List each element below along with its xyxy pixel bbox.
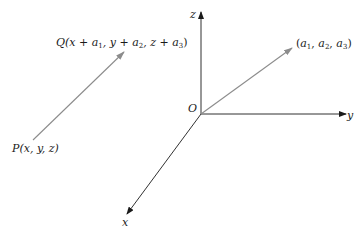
y-axis-label: y	[346, 109, 354, 122]
vector-diagram: z y x O (a1, a2, a3) P(x, y, z) Q(x + a1…	[0, 0, 361, 236]
x-axis	[127, 114, 201, 214]
point-p-label: P(x, y, z)	[11, 142, 59, 155]
z-axis-label: z	[189, 8, 196, 21]
translated-vector-arrow	[33, 52, 124, 140]
x-axis-label: x	[122, 216, 129, 229]
point-q-label: Q(x + a1, y + a2, z + a3)	[56, 36, 188, 50]
position-vector-arrow	[201, 48, 292, 114]
position-vector-label: (a1, a2, a3)	[296, 37, 352, 51]
origin-label: O	[188, 102, 197, 115]
